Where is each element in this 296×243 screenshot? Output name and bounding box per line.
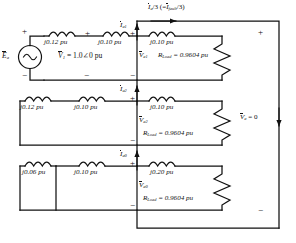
row1-resistor-label: RLoad = 0.9604 pu — [158, 52, 208, 59]
row1-current-label: Ia1 — [120, 22, 127, 29]
row1-node-plus-mid: + — [85, 29, 90, 38]
row3-inductor-2-label: j0.10 pu — [74, 169, 97, 176]
circuit-schematic-svg — [0, 0, 296, 243]
row1-voltage-label: Va1 — [139, 52, 148, 59]
row3-current-symbol: I — [120, 151, 122, 158]
row2-inductor-1-label: j0.12 pu — [20, 104, 43, 111]
v1-value: = 1.0∠0 pu — [67, 51, 102, 60]
row3-inductor-1-label: j0.06 pu — [22, 169, 45, 176]
right-rail-voltage-subscript: a — [244, 116, 246, 121]
row3-voltage-label: Va0 — [139, 182, 148, 189]
ac-source-sine — [24, 54, 37, 60]
source-label: Ea — [2, 52, 9, 61]
row1-inductor-2-label: j0.10 pu — [98, 39, 121, 46]
source-symbol: E — [2, 52, 7, 60]
row1-voltage-symbol: V — [139, 52, 143, 59]
circuit-diagram: Ia/3 (=Ifault/3) Ea + − V1 = 1.0∠0 pu j0… — [0, 0, 296, 243]
row2-current-label: Ia2 — [120, 86, 127, 93]
row2-voltage-symbol: V — [139, 117, 143, 124]
right-rail-voltage-value: = 0 — [248, 113, 257, 121]
row2-voltage-subscript: a2 — [143, 119, 147, 124]
row2-voltage-label: Va2 — [139, 117, 148, 124]
row1-resistor-value: = 0.9604 pu — [173, 51, 208, 59]
row3-voltage-symbol: V — [139, 182, 143, 189]
row1-voltage-subscript: a1 — [143, 54, 147, 59]
row3-current-subscript: a0 — [122, 153, 126, 158]
row1-inductor-3-label: j0.10 pu — [150, 39, 173, 46]
row1-node-minus: − — [130, 71, 135, 80]
row3-resistor-value: = 0.9604 pu — [158, 194, 193, 202]
row3-resistor-label: RLoad = 0.9604 pu — [143, 195, 193, 202]
row1-current-symbol: I — [120, 22, 122, 29]
row3-current-label: Ia0 — [120, 151, 127, 158]
row1-node-minus-mid: − — [84, 71, 89, 80]
row1-current-subscript: a1 — [122, 24, 126, 29]
row2-resistor-value: = 0.9604 pu — [158, 129, 193, 137]
right-rail-voltage-label: Va = 0 — [240, 114, 258, 121]
top-current-symbol: I — [148, 4, 150, 11]
right-rail-minus-sign: − — [258, 206, 263, 215]
row1-inductor-1-label: j0.12 pu — [44, 39, 67, 46]
right-rail-voltage-symbol: V — [240, 114, 244, 121]
row1-node-plus: + — [130, 29, 135, 38]
row2-inductor-3-label: j0.10 pu — [150, 104, 173, 111]
top-current-label: Ia/3 (=Ifault/3) — [148, 4, 185, 11]
row2-current-subscript: a2 — [122, 88, 126, 93]
row2-node-minus: − — [130, 136, 135, 145]
top-current-alt-symbol: I — [166, 4, 168, 11]
source-plus-sign: + — [22, 27, 27, 36]
row3-voltage-subscript: a0 — [143, 184, 147, 189]
right-rail-plus-sign: + — [258, 28, 263, 37]
row2-current-symbol: I — [120, 86, 122, 93]
row2-node-plus: + — [130, 94, 135, 103]
row1-resistor-subscript: Load — [162, 54, 171, 59]
top-current-alt-subscript: fault — [169, 6, 177, 11]
row2-inductor-2-label: j0.10 pu — [74, 104, 97, 111]
top-current-expr: /3 (= — [153, 3, 167, 11]
row3-node-minus: − — [130, 201, 135, 210]
row3-inductor-3-label: j0.20 pu — [150, 169, 173, 176]
row2-resistor-subscript: Load — [147, 132, 156, 137]
row2-resistor-label: RLoad = 0.9604 pu — [143, 130, 193, 137]
v1-label: V1 = 1.0∠0 pu — [58, 52, 102, 61]
v1-symbol: V — [58, 52, 63, 60]
top-current-expr-end: /3) — [177, 3, 185, 11]
row3-resistor-subscript: Load — [147, 197, 156, 202]
source-minus-sign: − — [22, 71, 27, 80]
row3-node-plus: + — [130, 159, 135, 168]
